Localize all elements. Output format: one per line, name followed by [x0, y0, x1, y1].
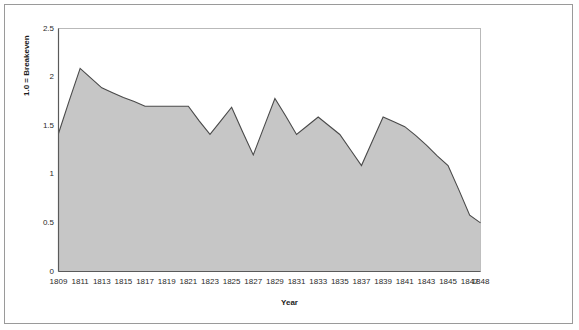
y-tick-label: 1: [20, 169, 54, 178]
y-tick-label: 1.5: [20, 121, 54, 130]
y-tick-label: 2: [20, 72, 54, 81]
y-tick-label: 0: [20, 267, 54, 276]
x-axis-title: Year: [0, 298, 579, 307]
y-tick-label: 0.5: [20, 218, 54, 227]
x-tick-label: 1848: [466, 277, 496, 286]
y-tick-label: 2.5: [20, 24, 54, 33]
area-chart: 1.0 = Breakeven Year 00.511.522.5 180918…: [0, 0, 579, 330]
y-axis-title: 1.0 = Breakeven: [22, 84, 31, 96]
